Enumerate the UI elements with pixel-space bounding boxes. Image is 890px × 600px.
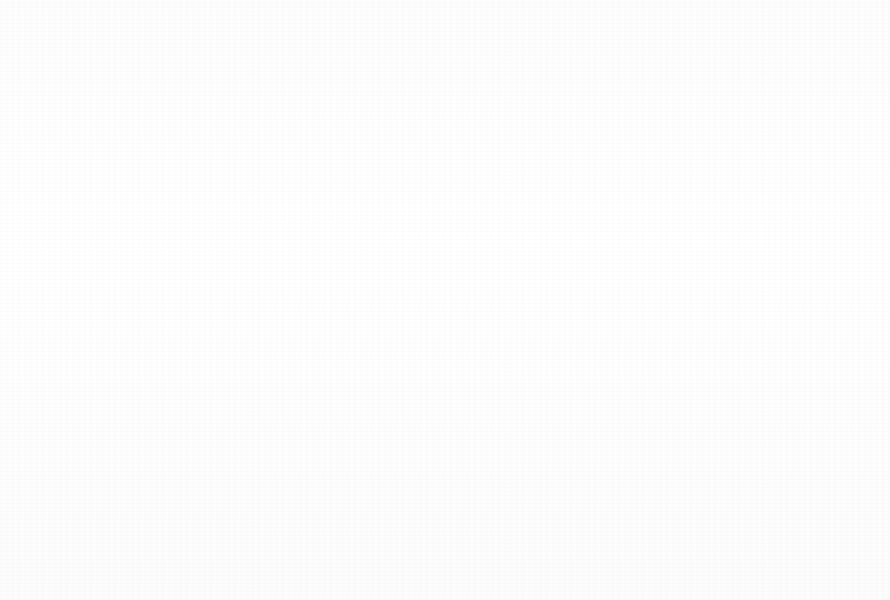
bar-dark: [160, 189, 286, 204]
y-axis-title: Household income: [40, 10, 51, 180]
y-axis-category-label: 5k - 9.9k: [115, 450, 151, 461]
bar-group: 30k - 34.9k: [160, 210, 890, 255]
bar-group: 10k - 14.9k: [160, 388, 890, 433]
y-axis-category-label: 25k - 29.9k: [104, 271, 151, 282]
x-axis-tick: [476, 522, 477, 527]
bar-group: 15k - 19.9k: [160, 344, 890, 389]
x-axis-tick-label: 20: [786, 532, 797, 543]
bar-light: [160, 83, 381, 98]
x-axis-tick: [318, 522, 319, 527]
bar-group: 50k and above: [160, 32, 890, 77]
y-axis-category-label: less than 5k: [100, 494, 151, 505]
bar-dark: [160, 144, 255, 159]
bar-dark: [160, 367, 666, 382]
bar-light: [160, 306, 602, 321]
bar-dark: [160, 412, 539, 427]
bar-group: 25k - 29.9k: [160, 255, 890, 300]
x-axis-tick: [634, 522, 635, 527]
y-axis-category-label: 50k and above: [89, 49, 151, 60]
y-axis-tick: [156, 522, 164, 523]
bar-group: 5k - 9.9k: [160, 433, 890, 478]
x-axis-tick-label: 5: [315, 532, 321, 543]
bar-group: 35k - 39.9k: [160, 166, 890, 211]
bar-light: [160, 439, 381, 454]
bar-group: less than 5k: [160, 477, 890, 522]
bar-light: [160, 261, 286, 276]
y-axis-category-label: 10k - 14.9k: [104, 405, 151, 416]
bar-light: [160, 38, 539, 53]
y-axis-title-label: Household income: [40, 180, 51, 350]
bar-group: 40k - 44.9k: [160, 121, 890, 166]
bar-dark: [160, 501, 887, 516]
bar-dark: [160, 55, 255, 70]
bar-light: [160, 216, 539, 231]
y-axis-category-label: 30k - 34.9k: [104, 227, 151, 238]
bar-dark: [160, 278, 286, 293]
y-axis-category-label: 35k - 39.9k: [104, 182, 151, 193]
y-axis-category-label: 45k - 49.9k: [104, 93, 151, 104]
bar-chart: Household income 05101520 50k and above4…: [0, 0, 890, 600]
bar-dark: [160, 456, 887, 471]
x-axis-tick-label: 10: [470, 532, 481, 543]
bar-light: [160, 127, 286, 142]
y-axis-category-label: 40k - 44.9k: [104, 138, 151, 149]
x-axis-title: Percent of respondents: [160, 556, 890, 567]
y-axis-category-label: 15k - 19.9k: [104, 361, 151, 372]
bar-dark: [160, 233, 255, 248]
plot-area: 05101520 50k and above45k - 49.9k40k - 4…: [160, 32, 890, 522]
x-axis-tick-label: 0: [157, 532, 163, 543]
x-axis-tick: [792, 522, 793, 527]
x-axis-tick-label: 15: [628, 532, 639, 543]
bar-light: [160, 350, 508, 365]
bar-group: 20k - 24.9k: [160, 299, 890, 344]
bar-dark: [160, 323, 476, 338]
bar-light: [160, 484, 508, 499]
bar-light: [160, 395, 508, 410]
y-axis-category-label: 20k - 24.9k: [104, 316, 151, 327]
bar-light: [160, 172, 444, 187]
bar-group: 45k - 49.9k: [160, 77, 890, 122]
